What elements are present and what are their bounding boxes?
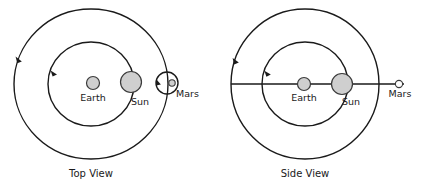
top-view-earth-orbit-direction-arrow xyxy=(51,71,57,77)
orbit-diagram: Earth Sun Mars Top View Earth xyxy=(0,0,428,193)
top-view-sun-body xyxy=(121,72,142,93)
top-view-sun-label: Sun xyxy=(131,96,149,107)
side-view-earth-body xyxy=(298,78,311,91)
diagram-canvas: Earth Sun Mars Top View Earth xyxy=(0,0,428,193)
top-view-mars-label: Mars xyxy=(176,88,199,99)
side-view-mars-label: Mars xyxy=(389,88,412,99)
side-view-sun-label: Sun xyxy=(342,96,360,107)
top-view-earth-label: Earth xyxy=(80,92,105,103)
side-view-sun-body xyxy=(332,74,353,95)
panel-top-view: Earth Sun Mars Top View xyxy=(14,9,199,179)
top-view-mars-body xyxy=(169,80,175,86)
top-view-earth-body xyxy=(87,77,100,90)
side-view-mars-body xyxy=(395,80,402,87)
top-view-caption: Top View xyxy=(68,168,113,179)
side-view-earth-label: Earth xyxy=(291,92,316,103)
side-view-caption: Side View xyxy=(281,168,330,179)
panel-side-view: Earth Sun Mars Side View xyxy=(231,9,411,179)
top-view-mars-loop-direction-arrow xyxy=(156,79,161,85)
side-view-earth-orbit-direction-arrow xyxy=(264,71,270,77)
